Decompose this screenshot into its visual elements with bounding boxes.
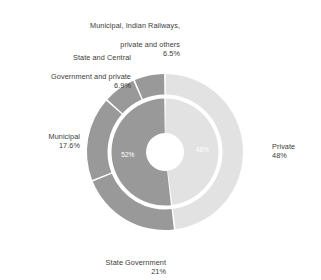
segment-label-state-government-line1: State Government — [106, 258, 166, 267]
segment-label-private: Private 48% — [272, 132, 318, 170]
segment-label-private-pct: 48% — [272, 151, 318, 161]
segment-label-private-line1: Private — [272, 142, 295, 151]
center-hole — [150, 137, 181, 168]
segment-label-municipal-line1: Municipal — [49, 132, 80, 141]
inner-ring-pct-private: 48% — [196, 146, 209, 153]
segment-label-municipal-pct: 17.6% — [8, 141, 80, 151]
donut-chart: 48%52% Municipal, Indian Railways, priva… — [0, 0, 321, 280]
segment-label-state-central-pct: 6.9% — [8, 81, 131, 91]
segment-label-state-central-line1: State and Central — [73, 53, 131, 62]
segment-label-state-central-line2: Government and private — [51, 72, 131, 81]
inner-ring-pct-public: 52% — [121, 151, 134, 158]
segment-label-municipal: Municipal 17.6% — [8, 122, 80, 160]
segment-label-state-central: State and Central Government and private… — [8, 43, 131, 101]
segment-label-railways-line1: Municipal, Indian Railways, — [90, 21, 180, 30]
segment-label-state-government: State Government 21% — [56, 248, 166, 280]
segment-label-state-government-pct: 21% — [56, 267, 166, 277]
